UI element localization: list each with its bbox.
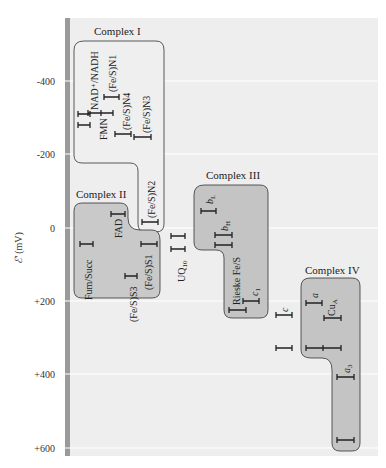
label-c: c [279,307,290,312]
label-fmn: FMN [98,118,109,140]
y-tick-label: -200 [37,149,55,160]
y-tick-labels: -400 -200 0 +200 +400 +600 [34,76,55,454]
label-rieske: Rieske Fe/S [231,257,242,305]
label-fes-n1: (Fe/S)N1 [107,55,119,92]
y-axis-bar [65,18,70,456]
y-tick-label: +200 [34,296,55,307]
label-a: a [309,293,320,298]
label-fum-succ: Fum/Succ [83,259,94,300]
complex-i-title: Complex I [94,25,141,37]
complex-iv-title: Complex IV [305,264,360,276]
label-fes-n2: (Fe/S)N2 [146,181,158,218]
label-fes-n3: (Fe/S)N3 [141,96,153,133]
label-fes-n4: (Fe/S)N4 [121,93,133,130]
redox-potential-chart: -400 -200 0 +200 +400 +600 ℰ′(mV) Comple… [0,0,386,468]
label-nad: NAD⁺/NADH [89,51,100,110]
y-tick-label: 0 [50,223,55,234]
y-tick-label: +400 [34,369,55,380]
complex-iii-title: Complex III [206,169,260,181]
y-tick-label: +600 [34,443,55,454]
y-axis-label: ℰ′(mV) [13,232,25,264]
label-fad: FAD [113,219,124,238]
y-tick-label: -400 [37,76,55,87]
label-fes-s1: (Fe/S)S1 [143,254,155,290]
complex-ii-title: Complex II [76,188,127,200]
label-fes-s3: (Fe/S)S3 [128,286,140,322]
